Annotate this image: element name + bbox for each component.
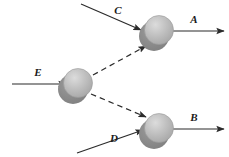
arrow-e-label: E — [33, 66, 41, 78]
bottom-node-face — [145, 114, 174, 143]
bottom-node — [139, 114, 174, 150]
arrow-c-line — [81, 4, 141, 30]
arrow-a-group: A — [168, 13, 224, 31]
arrow-branch-up-line — [93, 46, 146, 75]
arrow-c-label: C — [114, 4, 122, 16]
reaction-diagram: E C D A B — [0, 0, 229, 157]
arrow-d-label: D — [109, 132, 118, 144]
arrow-b-label: B — [189, 111, 197, 123]
arrow-d-group: D — [77, 130, 143, 153]
center-node — [58, 69, 93, 105]
arrow-c-group: C — [81, 4, 141, 30]
arrow-branch-down-line — [91, 94, 146, 117]
arrow-e-group: E — [12, 66, 66, 84]
top-node-face — [145, 16, 174, 45]
arrow-a-label: A — [189, 13, 197, 25]
diagram-canvas: E C D A B — [0, 0, 229, 157]
top-node — [139, 16, 174, 52]
arrow-b-group: B — [168, 111, 224, 129]
center-node-face — [64, 69, 93, 98]
